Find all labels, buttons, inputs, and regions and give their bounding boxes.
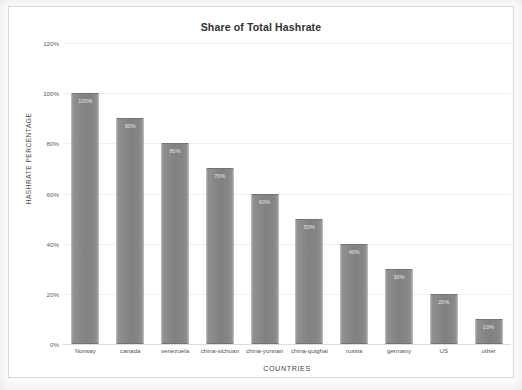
y-tick-label: 20% <box>13 290 59 297</box>
bar-value-label: 10% <box>476 324 501 330</box>
bar-slot: 40% <box>332 43 377 344</box>
bar[interactable]: 30% <box>385 269 412 344</box>
y-tick-label: 40% <box>13 240 59 247</box>
bar[interactable]: 70% <box>206 168 233 344</box>
y-tick-label: 0% <box>13 341 59 348</box>
bar[interactable]: 100% <box>72 93 99 344</box>
bar-value-label: 20% <box>431 299 456 305</box>
x-tick-label: Norway <box>75 347 96 354</box>
bar[interactable]: 50% <box>296 219 323 344</box>
bars-layer: 100%90%80%70%60%50%40%30%20%10% <box>63 43 511 344</box>
bar-slot: 60% <box>242 43 287 344</box>
bar-slot: 30% <box>377 43 422 344</box>
bar[interactable]: 80% <box>161 143 188 344</box>
bar-slot: 100% <box>63 43 108 344</box>
x-tick-label: china-yunnan <box>246 347 283 354</box>
bar[interactable]: 20% <box>430 294 457 344</box>
x-tick-label: venezuela <box>161 347 189 354</box>
x-tick-label: germany <box>387 347 411 354</box>
x-tick-label: canada <box>120 347 140 354</box>
bar-value-label: 40% <box>342 249 367 255</box>
bar-slot: 20% <box>421 43 466 344</box>
y-axis-title: HASHRATE PERCENTAGE <box>25 64 32 254</box>
x-tick-label: china-quighai <box>291 347 328 354</box>
x-axis-title: COUNTRIES <box>63 364 511 373</box>
y-tick-label: 60% <box>13 190 59 197</box>
bar-value-label: 100% <box>73 98 98 104</box>
bar-value-label: 50% <box>297 224 322 230</box>
bar-value-label: 90% <box>118 123 143 129</box>
bar[interactable]: 90% <box>117 118 144 344</box>
x-tick-label: china-sichuan <box>201 347 239 354</box>
x-tick-label: US <box>439 347 448 354</box>
bar[interactable]: 10% <box>475 319 502 344</box>
y-tick-label: 80% <box>13 140 59 147</box>
bar[interactable]: 40% <box>341 244 368 344</box>
x-tick-label: other <box>482 347 496 354</box>
bar-value-label: 80% <box>162 148 187 154</box>
chart-frame: Share of Total Hashrate 0% 20% 40% 60% 8… <box>8 6 514 378</box>
y-axis-ticks: 0% 20% 40% 60% 80% 100% 120% HASHRATE PE… <box>9 43 59 344</box>
x-tick-label: russia <box>346 347 363 354</box>
bar-value-label: 60% <box>252 199 277 205</box>
bar-value-label: 30% <box>386 274 411 280</box>
bar-slot: 70% <box>197 43 242 344</box>
chart-title: Share of Total Hashrate <box>9 21 513 33</box>
y-tick-label: 100% <box>13 90 59 97</box>
bar[interactable]: 60% <box>251 194 278 345</box>
y-tick-label: 120% <box>13 40 59 47</box>
x-axis-ticks: Norwaycanadavenezuelachina-sichuanchina-… <box>63 347 511 361</box>
axis-baseline <box>63 344 511 345</box>
bar-slot: 90% <box>108 43 153 344</box>
bar-slot: 50% <box>287 43 332 344</box>
bar-slot: 10% <box>466 43 511 344</box>
bar-value-label: 70% <box>207 173 232 179</box>
plot-area: 100%90%80%70%60%50%40%30%20%10% <box>63 43 511 344</box>
bar-slot: 80% <box>153 43 198 344</box>
chart-figure: Share of Total Hashrate 0% 20% 40% 60% 8… <box>0 0 522 390</box>
